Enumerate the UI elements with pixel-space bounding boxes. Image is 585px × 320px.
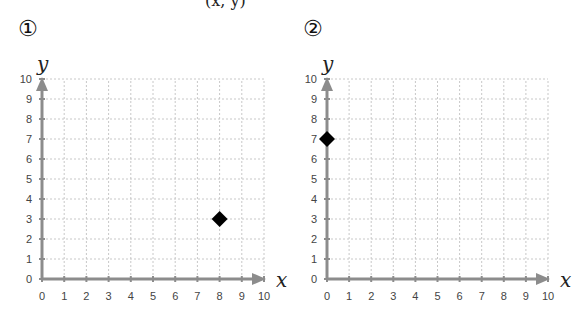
x-tick-label: 5 (434, 290, 440, 302)
y-tick-label: 4 (26, 193, 32, 205)
y-tick-label: 0 (26, 273, 32, 285)
y-tick-label: 6 (311, 153, 317, 165)
y-tick-label: 5 (311, 173, 317, 185)
x-tick-label: 2 (368, 290, 374, 302)
x-tick-label: 6 (457, 290, 463, 302)
y-tick-label: 0 (311, 273, 317, 285)
axes: 012345678910012345678910 (305, 73, 554, 302)
y-tick-label: 8 (311, 113, 317, 125)
y-tick-label: 1 (311, 253, 317, 265)
y-axis-label: y (321, 52, 334, 76)
y-tick-label: 9 (26, 93, 32, 105)
x-tick-label: 9 (239, 290, 245, 302)
y-tick-label: 10 (20, 73, 32, 85)
x-tick-label: 1 (346, 290, 352, 302)
x-tick-label: 7 (194, 290, 200, 302)
x-tick-label: 3 (390, 290, 396, 302)
x-tick-label: 7 (479, 290, 485, 302)
x-tick-label: 8 (501, 290, 507, 302)
x-tick-label: 4 (128, 290, 134, 302)
y-tick-label: 2 (26, 233, 32, 245)
x-tick-label: 5 (150, 290, 156, 302)
x-tick-label: 0 (39, 290, 45, 302)
x-tick-label: 0 (324, 290, 330, 302)
grid (42, 79, 264, 279)
y-tick-label: 5 (26, 173, 32, 185)
x-tick-label: 9 (523, 290, 529, 302)
x-tick-label: 3 (106, 290, 112, 302)
y-tick-label: 8 (26, 113, 32, 125)
x-tick-label: 2 (83, 290, 89, 302)
y-tick-label: 1 (26, 253, 32, 265)
y-tick-label: 4 (311, 193, 317, 205)
y-tick-label: 7 (26, 133, 32, 145)
data-point-diamond (319, 131, 335, 147)
x-tick-label: 8 (217, 290, 223, 302)
x-tick-label: 1 (61, 290, 67, 302)
x-axis-label: x (560, 268, 571, 292)
grid (327, 79, 548, 279)
chart-2: ②012345678910012345678910xy (303, 16, 571, 302)
y-tick-label: 10 (305, 73, 317, 85)
coordinate-plots: ①012345678910012345678910xy②012345678910… (0, 0, 585, 320)
x-tick-label: 10 (258, 290, 270, 302)
data-point-diamond (212, 211, 228, 227)
y-tick-label: 7 (311, 133, 317, 145)
y-tick-label: 9 (311, 93, 317, 105)
y-tick-label: 3 (311, 213, 317, 225)
chart-number-label: ① (18, 16, 38, 41)
x-tick-label: 10 (542, 290, 554, 302)
chart-number-label: ② (303, 16, 323, 41)
x-tick-label: 6 (172, 290, 178, 302)
y-axis-label: y (36, 52, 49, 76)
y-tick-label: 6 (26, 153, 32, 165)
y-tick-label: 2 (311, 233, 317, 245)
chart-1: ①012345678910012345678910xy (18, 16, 287, 302)
y-tick-label: 3 (26, 213, 32, 225)
axes: 012345678910012345678910 (20, 73, 270, 302)
x-axis-label: x (276, 268, 287, 292)
x-tick-label: 4 (412, 290, 418, 302)
